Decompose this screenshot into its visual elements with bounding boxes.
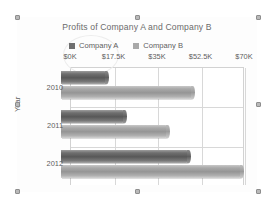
- gridline-horizontal: [71, 107, 243, 108]
- bar-company-b-2010[interactable]: [61, 86, 193, 99]
- gridline-horizontal: [71, 147, 243, 148]
- bar-end-cap: [123, 110, 127, 123]
- selection-handle-top-right[interactable]: [256, 15, 261, 20]
- selection-handle-middle-left[interactable]: [15, 102, 20, 107]
- selection-handle-middle-right[interactable]: [256, 102, 261, 107]
- category-label-2011: 2011: [33, 121, 63, 130]
- selection-handle-bottom-right[interactable]: [256, 189, 261, 194]
- value-axis-tick-0: $0K: [63, 52, 76, 61]
- legend-item-company-a[interactable]: Company A: [69, 41, 118, 50]
- bar-end-cap: [191, 86, 195, 99]
- selection-handle-bottom-center[interactable]: [135, 189, 140, 194]
- legend-swatch-company-a: [69, 43, 75, 49]
- legend-item-company-b[interactable]: Company B: [133, 41, 183, 50]
- bar-company-a-2012[interactable]: [61, 150, 189, 163]
- value-axis: $0K $17.5K $35K $52.5K $70K: [17, 52, 257, 64]
- chart-title: Profits of Company A and Company B: [17, 22, 257, 32]
- category-label-2012: 2012: [33, 159, 63, 168]
- selection-handle-top-center[interactable]: [135, 15, 140, 20]
- value-axis-tick-1: $17.5K: [102, 52, 125, 61]
- gridline-vertical: [245, 68, 246, 185]
- legend-label-company-a: Company A: [79, 41, 118, 50]
- bar-company-a-2011[interactable]: [61, 110, 125, 123]
- value-axis-tick-2: $35K: [148, 52, 165, 61]
- category-label-2010: 2010: [33, 83, 63, 92]
- value-axis-tick-4: $70K: [235, 52, 252, 61]
- bar-end-cap: [240, 165, 244, 178]
- legend-swatch-company-b: [133, 43, 139, 49]
- selection-handle-top-left[interactable]: [15, 15, 20, 20]
- legend-label-company-b: Company B: [143, 41, 183, 50]
- chart-legend[interactable]: Company A Company B: [69, 41, 183, 50]
- chart-object[interactable]: Profits of Company A and Company B Compa…: [17, 17, 257, 192]
- bar-company-b-2011[interactable]: [61, 125, 168, 138]
- selection-handle-bottom-left[interactable]: [15, 189, 20, 194]
- bar-company-a-2010[interactable]: [61, 71, 107, 84]
- value-axis-tick-3: $52.5K: [189, 52, 212, 61]
- bar-company-b-2012[interactable]: [61, 165, 242, 178]
